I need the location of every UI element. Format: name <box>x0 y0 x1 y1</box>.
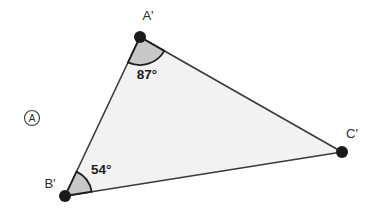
vertex-dot-b-prime <box>59 190 71 202</box>
vertex-label-c-prime: C' <box>346 126 358 141</box>
vertex-dot-a-prime <box>134 31 146 43</box>
angle-label-a-prime: 87° <box>137 67 157 82</box>
vertex-label-b-prime: B' <box>44 176 55 191</box>
vertex-label-a-prime: A' <box>142 8 153 23</box>
angle-label-b-prime: 54° <box>91 162 111 177</box>
geometry-figure-panel: A' B' C' 87° 54° A <box>0 0 381 216</box>
triangle-diagram-canvas: A' B' C' 87° 54° A <box>0 0 381 216</box>
vertex-dot-c-prime <box>336 146 348 158</box>
panel-marker-label: A <box>29 113 36 124</box>
